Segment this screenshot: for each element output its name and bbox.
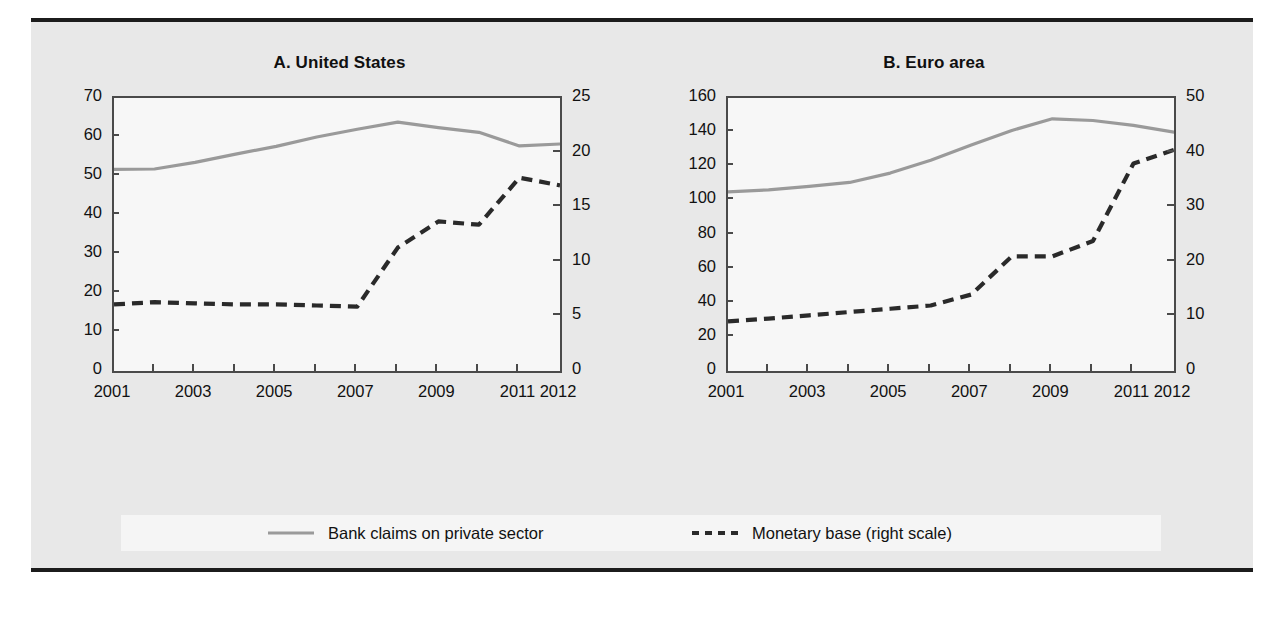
x-tick-mark xyxy=(1130,364,1132,371)
x-tick-mark xyxy=(314,364,316,371)
y-left-tick-label: 20 xyxy=(648,326,716,343)
x-tick-mark xyxy=(1009,364,1011,371)
y-left-tick-label: 40 xyxy=(648,292,716,309)
y-right-tick-label: 0 xyxy=(572,360,632,377)
y-right-tick-mark xyxy=(1167,204,1174,206)
y-right-tick-label: 20 xyxy=(1186,251,1246,268)
y-left-tick-mark xyxy=(726,197,733,199)
y-left-tick-label: 70 xyxy=(34,87,102,104)
y-left-tick-label: 80 xyxy=(648,224,716,241)
series-line-bank-claims xyxy=(728,119,1174,192)
x-tick-label: 2001 xyxy=(82,383,142,400)
y-left-tick-mark xyxy=(112,251,119,253)
y-right-tick-label: 0 xyxy=(1186,360,1246,377)
y-left-tick-label: 40 xyxy=(34,204,102,221)
panel-a-series-canvas xyxy=(114,98,560,371)
y-left-tick-label: 10 xyxy=(34,321,102,338)
legend-item-bank-claims: Bank claims on private sector xyxy=(267,515,544,551)
y-right-tick-mark xyxy=(1167,313,1174,315)
y-left-tick-label: 140 xyxy=(648,121,716,138)
x-tick-mark xyxy=(928,364,930,371)
legend-swatch-solid-line-icon xyxy=(267,526,315,540)
x-tick-label: 2005 xyxy=(858,383,918,400)
y-right-tick-label: 15 xyxy=(572,196,632,213)
panel-b-plot-area xyxy=(726,96,1176,373)
y-right-tick-label: 40 xyxy=(1186,142,1246,159)
y-right-tick-mark xyxy=(553,204,560,206)
y-right-tick-label: 10 xyxy=(572,251,632,268)
panel-euro-area: B. Euro area 020406080100120140160010203… xyxy=(628,21,1236,491)
y-left-tick-mark xyxy=(726,334,733,336)
y-left-tick-label: 160 xyxy=(648,87,716,104)
y-right-tick-mark xyxy=(1167,259,1174,261)
y-left-tick-mark xyxy=(112,173,119,175)
y-right-tick-mark xyxy=(553,259,560,261)
legend-label-monetary-base: Monetary base (right scale) xyxy=(752,524,952,543)
y-right-tick-label: 10 xyxy=(1186,305,1246,322)
legend-swatch-dashed-line-icon xyxy=(691,526,739,540)
legend: Bank claims on private sector Monetary b… xyxy=(121,515,1161,551)
x-tick-mark xyxy=(806,364,808,371)
x-tick-mark xyxy=(273,364,275,371)
x-tick-label: 2009 xyxy=(406,383,466,400)
y-left-tick-mark xyxy=(726,129,733,131)
x-tick-label: 2001 xyxy=(696,383,756,400)
y-left-tick-mark xyxy=(112,290,119,292)
x-tick-mark xyxy=(968,364,970,371)
y-right-tick-mark xyxy=(553,313,560,315)
x-tick-mark xyxy=(192,364,194,371)
x-tick-mark xyxy=(476,364,478,371)
y-right-tick-label: 20 xyxy=(572,142,632,159)
y-left-tick-label: 50 xyxy=(34,165,102,182)
x-tick-mark xyxy=(516,364,518,371)
y-right-tick-label: 25 xyxy=(572,87,632,104)
x-tick-label: 2009 xyxy=(1020,383,1080,400)
y-left-tick-label: 30 xyxy=(34,243,102,260)
y-left-tick-mark xyxy=(726,232,733,234)
panel-united-states: A. United States 01020304050607005101520… xyxy=(31,21,628,491)
y-left-tick-mark xyxy=(112,212,119,214)
y-left-tick-label: 0 xyxy=(34,360,102,377)
bottom-rule xyxy=(31,568,1253,572)
series-line-bank-claims xyxy=(114,122,560,169)
x-tick-label: 2007 xyxy=(939,383,999,400)
x-tick-label: 2005 xyxy=(244,383,304,400)
x-tick-mark xyxy=(1049,364,1051,371)
series-line-monetary-base xyxy=(114,178,560,307)
y-right-tick-label: 30 xyxy=(1186,196,1246,213)
legend-item-monetary-base: Monetary base (right scale) xyxy=(691,515,952,551)
y-left-tick-label: 0 xyxy=(648,360,716,377)
series-line-monetary-base xyxy=(728,150,1174,321)
panel-b-title: B. Euro area xyxy=(630,53,1238,73)
x-tick-label: 2012 xyxy=(528,383,588,400)
x-tick-mark xyxy=(395,364,397,371)
panel-b-series-canvas xyxy=(728,98,1174,371)
panel-a-title: A. United States xyxy=(41,53,638,73)
y-left-tick-mark xyxy=(726,300,733,302)
y-left-tick-mark xyxy=(112,329,119,331)
figure-container: A. United States 01020304050607005101520… xyxy=(0,0,1285,623)
y-right-tick-mark xyxy=(553,150,560,152)
x-tick-mark xyxy=(887,364,889,371)
y-left-tick-label: 120 xyxy=(648,155,716,172)
x-tick-mark xyxy=(233,364,235,371)
y-left-tick-mark xyxy=(726,266,733,268)
x-tick-mark xyxy=(152,364,154,371)
y-left-tick-label: 60 xyxy=(648,258,716,275)
y-right-tick-label: 5 xyxy=(572,305,632,322)
y-left-tick-label: 100 xyxy=(648,189,716,206)
y-right-tick-label: 50 xyxy=(1186,87,1246,104)
x-tick-label: 2003 xyxy=(163,383,223,400)
x-tick-mark xyxy=(847,364,849,371)
legend-label-bank-claims: Bank claims on private sector xyxy=(328,524,544,543)
x-tick-label: 2012 xyxy=(1142,383,1202,400)
y-left-tick-mark xyxy=(112,134,119,136)
x-tick-mark xyxy=(435,364,437,371)
x-tick-label: 2003 xyxy=(777,383,837,400)
panel-a-plot-area xyxy=(112,96,562,373)
x-tick-mark xyxy=(354,364,356,371)
y-left-tick-label: 20 xyxy=(34,282,102,299)
y-right-tick-mark xyxy=(1167,150,1174,152)
x-tick-mark xyxy=(766,364,768,371)
x-tick-label: 2007 xyxy=(325,383,385,400)
